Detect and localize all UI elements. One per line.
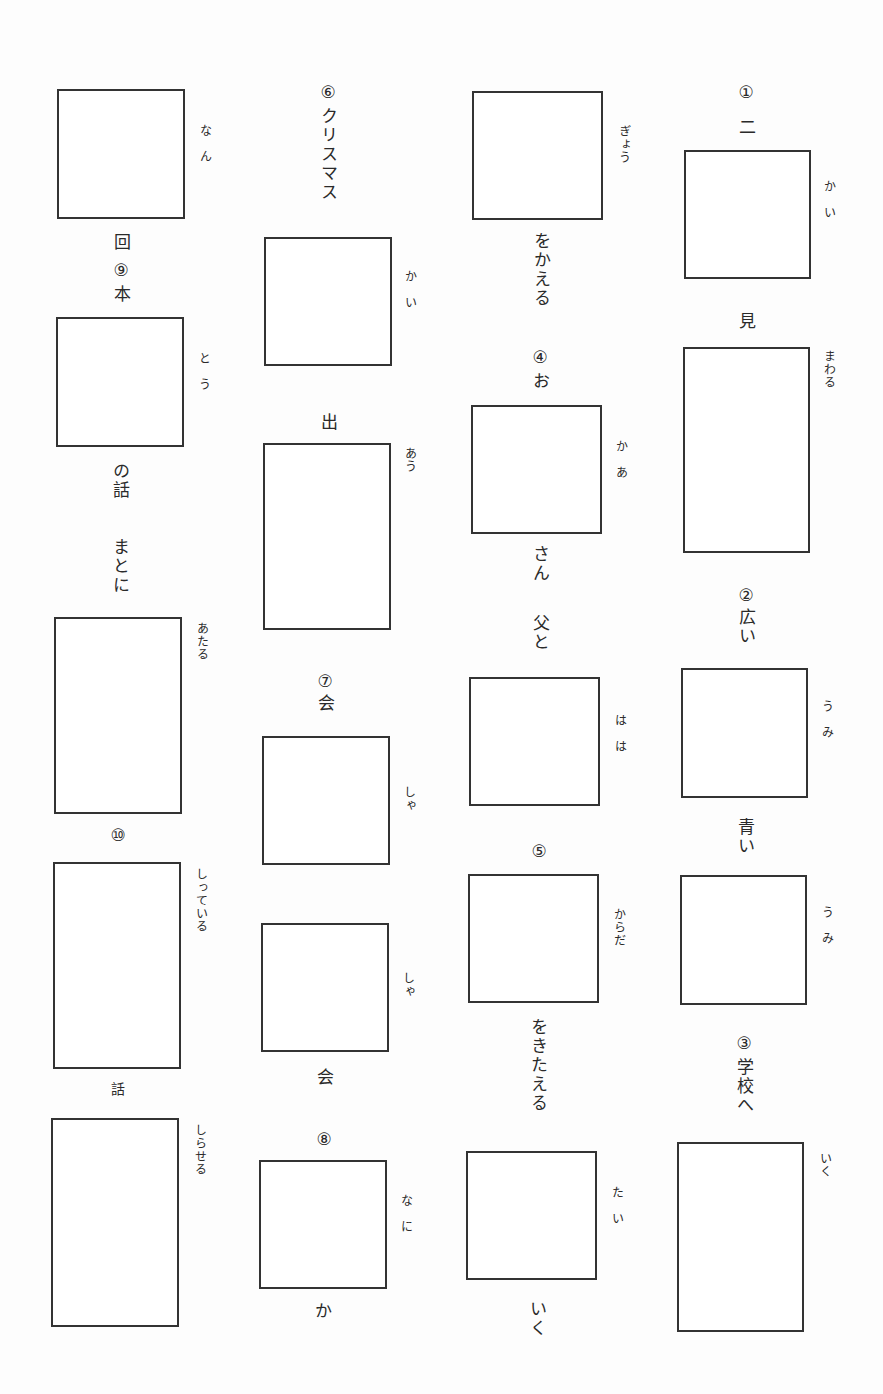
prompt-text: 会 — [315, 1068, 332, 1087]
furigana: うみ — [820, 906, 832, 958]
prompt-text: 話 — [108, 1082, 125, 1098]
prompt-text: か — [313, 1302, 330, 1321]
question-number-6: ⑥ — [316, 84, 340, 101]
answer-box-5a[interactable] — [468, 874, 599, 1003]
prompt-text: 会 — [316, 694, 333, 713]
question-number-3: ③ — [732, 1035, 756, 1052]
prompt-text: 学校へ — [735, 1058, 752, 1115]
furigana: まわる — [822, 350, 834, 389]
worksheet-page: ① 二 かい 見 まわる ② 広い うみ 青い うみ ③ 学校へ いく ぎょう … — [0, 0, 883, 1394]
furigana: いく — [818, 1152, 830, 1178]
question-number-1: ① — [734, 84, 758, 101]
prompt-text: をかえる — [532, 232, 549, 308]
prompt-text: をきたえる — [529, 1018, 546, 1113]
furigana: とう — [197, 352, 209, 404]
answer-box-1b[interactable] — [683, 347, 810, 553]
answer-box-4a[interactable] — [471, 405, 602, 534]
answer-box-10b[interactable] — [51, 1118, 179, 1327]
prompt-text: 広い — [737, 608, 754, 646]
furigana: あう — [403, 447, 415, 473]
furigana: しっている — [194, 868, 206, 933]
furigana: うみ — [820, 700, 832, 752]
furigana: かい — [403, 270, 415, 322]
furigana: しゃ — [402, 786, 414, 812]
prompt-text: クリスマス — [319, 107, 336, 202]
prompt-text: 出 — [319, 413, 336, 432]
prompt-text: 青い — [736, 818, 753, 856]
furigana: あたる — [195, 622, 207, 661]
furigana: しらせる — [193, 1124, 205, 1176]
answer-box-8-cont[interactable] — [57, 89, 185, 219]
question-number-10: ⑩ — [106, 827, 130, 844]
answer-box-6b[interactable] — [263, 443, 391, 630]
question-number-2: ② — [734, 587, 758, 604]
prompt-text: 二 — [737, 118, 754, 137]
furigana: ぎょう — [617, 125, 629, 164]
question-number-5: ⑤ — [527, 843, 551, 860]
answer-box-8[interactable] — [259, 1160, 387, 1289]
answer-box-3-cont[interactable] — [472, 91, 603, 220]
question-number-9: ⑨ — [109, 262, 133, 279]
prompt-text: お — [531, 372, 548, 391]
furigana: かい — [822, 180, 834, 232]
prompt-text: 本 — [112, 285, 129, 304]
answer-box-1a[interactable] — [684, 150, 811, 279]
furigana: たい — [610, 1186, 622, 1238]
prompt-text: さん — [531, 545, 548, 583]
question-number-8: ⑧ — [312, 1131, 336, 1148]
prompt-text: まとに — [111, 538, 128, 595]
prompt-text: の話 — [111, 462, 128, 500]
answer-box-7b[interactable] — [261, 923, 389, 1052]
answer-box-2b[interactable] — [680, 875, 807, 1005]
answer-box-5b[interactable] — [466, 1151, 597, 1280]
prompt-text: 見 — [737, 312, 754, 331]
prompt-text: いく — [528, 1300, 545, 1338]
answer-box-4b[interactable] — [469, 677, 600, 806]
answer-box-10a[interactable] — [53, 862, 181, 1069]
furigana: からだ — [612, 908, 624, 947]
answer-box-2a[interactable] — [681, 668, 808, 798]
furigana: かあ — [614, 440, 626, 492]
answer-box-7a[interactable] — [262, 736, 390, 865]
furigana: はは — [613, 714, 625, 766]
furigana: なに — [399, 1194, 411, 1246]
prompt-text: 回 — [112, 233, 129, 252]
question-number-4: ④ — [528, 349, 552, 366]
answer-box-3[interactable] — [677, 1142, 804, 1332]
prompt-text: 父と — [531, 614, 548, 652]
furigana: しゃ — [401, 972, 413, 998]
furigana: なん — [198, 124, 210, 176]
question-number-7: ⑦ — [313, 673, 337, 690]
answer-box-9a[interactable] — [56, 317, 184, 447]
answer-box-6a[interactable] — [264, 237, 392, 366]
answer-box-9b[interactable] — [54, 617, 182, 814]
